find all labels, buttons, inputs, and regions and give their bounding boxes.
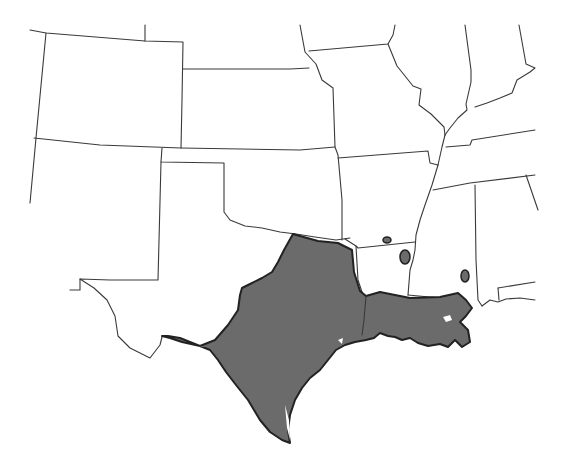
range-disjunct-louisiana <box>400 250 410 264</box>
range-map <box>0 0 561 471</box>
range-disjunct-alabama <box>461 270 469 282</box>
range-disjunct-arkansas <box>383 237 391 243</box>
range-main <box>162 234 472 443</box>
species-range <box>162 234 472 443</box>
